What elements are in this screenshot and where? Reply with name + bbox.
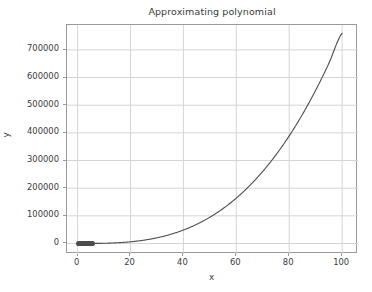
plot-area bbox=[66, 24, 357, 253]
data-point-marker bbox=[90, 241, 95, 246]
x-tick-label: 40 bbox=[162, 257, 202, 267]
x-tick-label: 100 bbox=[321, 257, 361, 267]
x-tick-label: 60 bbox=[215, 257, 255, 267]
grid-lines bbox=[67, 25, 358, 254]
x-tick-label: 20 bbox=[109, 257, 149, 267]
x-tick-label: 80 bbox=[268, 257, 308, 267]
chart-figure: Approximating polynomial y x 01000002000… bbox=[0, 0, 372, 292]
plot-canvas bbox=[67, 25, 358, 254]
data-line-approximating-polynomial-curve bbox=[78, 33, 343, 243]
x-tick-label: 0 bbox=[57, 257, 97, 267]
data-series-layer bbox=[76, 33, 342, 246]
